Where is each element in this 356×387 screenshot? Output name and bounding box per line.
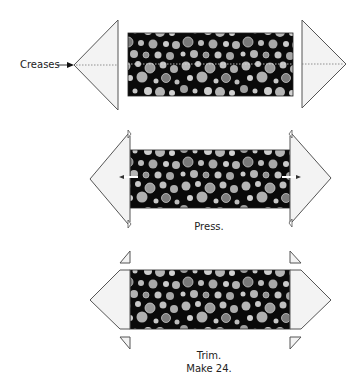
creases-label: Creases [20, 59, 60, 71]
creases-arrow-head [67, 62, 74, 68]
step-1-group [57, 20, 346, 110]
trimmed-dog-ear-top-right [290, 251, 301, 263]
fabric-rectangle [128, 33, 293, 96]
step-2-group [90, 130, 331, 228]
left-triangle [74, 20, 118, 110]
fabric-rectangle [130, 150, 290, 208]
right-trimmed-point [290, 270, 331, 329]
trimmed-dog-ear-bottom-left [120, 337, 130, 349]
press-caption: Press. [194, 221, 224, 233]
trimmed-dog-ear-bottom-right [290, 337, 301, 349]
step-3-group [90, 251, 331, 349]
left-trimmed-point [90, 270, 130, 329]
trimmed-dog-ear-top-left [120, 251, 130, 263]
make-count-caption: Make 24. [186, 363, 231, 375]
trim-caption: Trim. [197, 350, 221, 362]
fabric-rectangle [130, 270, 290, 329]
